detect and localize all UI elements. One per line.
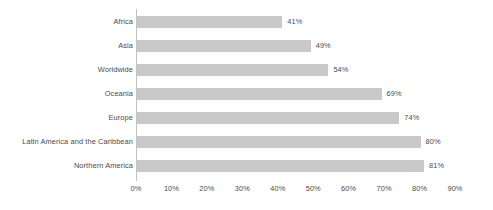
category-label: Oceania (105, 82, 133, 106)
x-axis-ticks: 0%10%20%30%40%50%60%70%80%90% (0, 184, 493, 198)
category-label: Europe (109, 106, 133, 130)
x-tick-label: 30% (235, 184, 250, 193)
x-tick-label: 10% (164, 184, 179, 193)
category-label: Worldwide (98, 58, 133, 82)
bar (137, 40, 311, 52)
bar (137, 16, 282, 28)
bar-rows: Africa41%Asia49%Worldwide54%Oceania69%Eu… (0, 10, 493, 178)
bar-track: 80% (137, 130, 493, 154)
bar-chart: Africa41%Asia49%Worldwide54%Oceania69%Eu… (0, 0, 493, 210)
bar (137, 64, 328, 76)
bar-track: 54% (137, 58, 493, 82)
bar-row: Asia49% (0, 34, 493, 58)
bar-row: Europe74% (0, 106, 493, 130)
bar-track: 81% (137, 154, 493, 178)
x-tick-label: 20% (199, 184, 214, 193)
plot-area: Africa41%Asia49%Worldwide54%Oceania69%Eu… (0, 0, 493, 210)
bar (137, 88, 382, 100)
category-label: Northern America (74, 154, 133, 178)
x-tick-label: 70% (377, 184, 392, 193)
category-label: Asia (118, 34, 133, 58)
bar-value-label: 41% (287, 10, 302, 34)
bar-row: Oceania69% (0, 82, 493, 106)
bar-value-label: 80% (426, 130, 441, 154)
x-tick-label: 40% (270, 184, 285, 193)
bar-value-label: 49% (316, 34, 331, 58)
bar-value-label: 54% (333, 58, 348, 82)
x-tick-label: 60% (341, 184, 356, 193)
bar-row: Latin America and the Caribbean80% (0, 130, 493, 154)
bar-value-label: 81% (429, 154, 444, 178)
bar-track: 74% (137, 106, 493, 130)
category-label: Latin America and the Caribbean (22, 130, 133, 154)
bar-value-label: 69% (387, 82, 402, 106)
bar (137, 112, 399, 124)
x-tick-label: 90% (447, 184, 462, 193)
bar-track: 41% (137, 10, 493, 34)
x-tick-label: 80% (412, 184, 427, 193)
bar-track: 69% (137, 82, 493, 106)
x-tick-label: 0% (131, 184, 142, 193)
bar-row: Africa41% (0, 10, 493, 34)
bar (137, 136, 421, 148)
bar-row: Northern America81% (0, 154, 493, 178)
x-tick-label: 50% (306, 184, 321, 193)
bar (137, 160, 424, 172)
bar-row: Worldwide54% (0, 58, 493, 82)
bar-value-label: 74% (404, 106, 419, 130)
category-label: Africa (114, 10, 134, 34)
bar-track: 49% (137, 34, 493, 58)
